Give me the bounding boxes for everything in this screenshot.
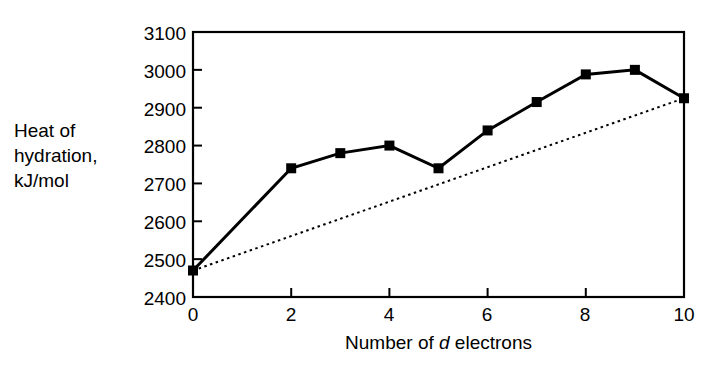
plot-area [0, 0, 724, 367]
data-point-d0 [188, 266, 198, 276]
data-point-d3 [335, 148, 345, 158]
data-point-d2 [286, 163, 296, 173]
data-point-d6 [483, 125, 493, 135]
data-point-d9 [630, 65, 640, 75]
data-point-d10 [679, 93, 689, 103]
x-axis-ticks [193, 288, 684, 297]
series-measured-markers [188, 65, 689, 276]
y-axis-ticks [193, 32, 202, 297]
data-point-d7 [532, 97, 542, 107]
data-point-d8 [581, 69, 591, 79]
data-point-d4 [384, 141, 394, 151]
series-reference-trend-line [193, 98, 684, 270]
chart-figure: Heat of hydration, kJ/mol 3100 3000 2900… [0, 0, 724, 367]
data-point-d5 [434, 163, 444, 173]
